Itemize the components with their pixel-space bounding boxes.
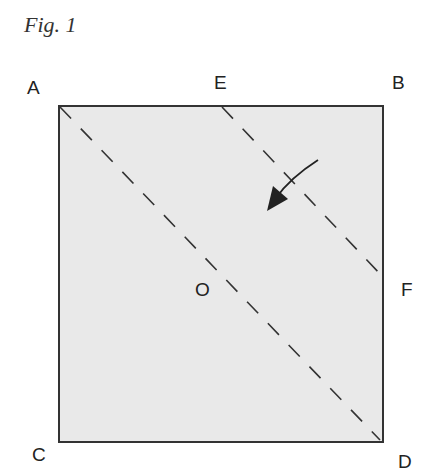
label-B: B	[392, 73, 405, 92]
label-O: O	[195, 280, 210, 299]
label-E: E	[214, 73, 227, 92]
diagram-canvas	[0, 0, 439, 472]
label-D: D	[398, 452, 412, 471]
label-C: C	[32, 445, 46, 464]
label-F: F	[401, 280, 413, 299]
label-A: A	[27, 78, 40, 97]
